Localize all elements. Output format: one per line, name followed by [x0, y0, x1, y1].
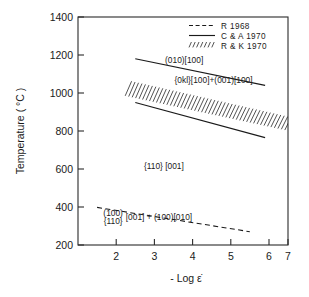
y-axis-title: Temperature ( °C ) [14, 88, 26, 174]
annotation-field-010-100: (010)[100] [165, 55, 203, 65]
legend: R 1968 C & A 1970 R & K 1970 [189, 22, 267, 51]
legend-label-c-and-a-1970: C & A 1970 [221, 32, 266, 41]
y-axis-tick-labels: 1400 1200 1000 800 600 400 200 [50, 11, 74, 251]
annotation-field-100-110-001-b: {110} [104, 216, 123, 226]
legend-label-r-and-k-1970: R & K 1970 [221, 42, 267, 51]
x-tick-label: 2 [113, 250, 119, 262]
x-tick-label: 5 [228, 250, 234, 262]
y-tick-label: 400 [55, 201, 73, 213]
x-axis-ticks [116, 239, 288, 245]
deformation-mechanism-map-figure: 1400 1200 1000 800 600 400 200 Temperatu… [0, 0, 309, 297]
y-tick-label: 200 [55, 239, 73, 251]
y-tick-label: 600 [55, 163, 73, 175]
x-tick-label: 6 [266, 250, 272, 262]
annotation-field-110-001: {110} [001] [144, 161, 184, 171]
x-tick-label: 4 [190, 250, 196, 262]
y-tick-label: 1400 [50, 11, 74, 23]
x-axis-title: - Log ε̇ [170, 272, 203, 284]
annotation-field-0kl-100-001-100: {0kl}[100]+(001)[100] [175, 75, 253, 85]
y-axis-ticks [78, 17, 84, 245]
x-axis-tick-labels: 2 3 4 5 6 7 [113, 250, 291, 262]
x-tick-label: 7 [285, 250, 291, 262]
field-annotations: (010)[100]{0kl}[100]+(001)[100]{110} [00… [103, 55, 252, 226]
y-tick-label: 1200 [50, 49, 74, 61]
y-tick-label: 800 [55, 125, 73, 137]
x-tick-label: 3 [151, 250, 157, 262]
chart-svg: 1400 1200 1000 800 600 400 200 Temperatu… [0, 0, 309, 297]
legend-label-r-1968: R 1968 [221, 22, 250, 31]
legend-swatch-hatched [189, 42, 214, 47]
annotation-field-100-010: [001] + (100)[010] [126, 212, 192, 222]
y-tick-label: 1000 [50, 87, 74, 99]
